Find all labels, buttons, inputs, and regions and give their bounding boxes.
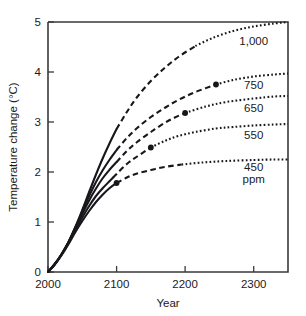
curve-550-dashed bbox=[113, 148, 151, 178]
curve-1,000-dashed bbox=[117, 46, 196, 129]
series-label-450: 450 bbox=[244, 161, 263, 173]
y-tick-label-3: 3 bbox=[35, 116, 41, 128]
y-axis-tick-labels: 0 1 2 3 4 5 bbox=[35, 16, 42, 278]
x-axis-tick-labels: 2000 2100 2200 2300 bbox=[35, 278, 266, 290]
x-axis-ticks bbox=[48, 266, 254, 272]
series-curves bbox=[48, 22, 288, 272]
curve-650-dashed bbox=[117, 113, 186, 162]
curve-450-solid bbox=[48, 183, 117, 272]
x-tick-label-2000: 2000 bbox=[35, 278, 61, 290]
curve-450-dashed bbox=[117, 165, 182, 184]
chart-annotations: ppm bbox=[243, 173, 265, 185]
series-label-550: 550 bbox=[244, 129, 263, 141]
y-tick-label-0: 0 bbox=[35, 266, 41, 278]
curve-750-solid bbox=[48, 150, 117, 272]
x-tick-label-2200: 2200 bbox=[172, 278, 198, 290]
series-label-750: 750 bbox=[244, 79, 263, 91]
chart-canvas: 0 1 2 3 4 5 2000 2100 2200 2300 Year Tem… bbox=[0, 0, 306, 316]
curve-1,000-solid bbox=[48, 129, 117, 272]
marker-dot-450 bbox=[114, 180, 120, 186]
plot-frame bbox=[48, 22, 288, 272]
annotation-ppm: ppm bbox=[243, 173, 265, 185]
x-tick-label-2100: 2100 bbox=[104, 278, 130, 290]
curve-450-dotted bbox=[182, 159, 288, 164]
marker-dot-650 bbox=[182, 110, 188, 116]
temperature-projection-figure: 0 1 2 3 4 5 2000 2100 2200 2300 Year Tem… bbox=[0, 0, 306, 316]
marker-dot-750 bbox=[213, 82, 219, 88]
y-tick-label-4: 4 bbox=[35, 66, 42, 78]
series-label-1,000: 1,000 bbox=[239, 35, 268, 47]
curve-550-dotted bbox=[151, 124, 288, 148]
y-tick-label-1: 1 bbox=[35, 216, 41, 228]
series-label-650: 650 bbox=[244, 102, 263, 114]
curve-650-dotted bbox=[185, 96, 288, 113]
series-labels: 1,000750650550450 bbox=[239, 35, 268, 173]
y-tick-label-2: 2 bbox=[35, 166, 41, 178]
series-markers bbox=[114, 82, 219, 186]
y-axis-title: Temperature change (°C) bbox=[7, 82, 19, 211]
x-axis-title: Year bbox=[156, 297, 179, 309]
y-tick-label-5: 5 bbox=[35, 16, 41, 28]
marker-dot-550 bbox=[148, 145, 154, 151]
y-axis-ticks bbox=[48, 22, 54, 272]
x-tick-label-2300: 2300 bbox=[241, 278, 267, 290]
